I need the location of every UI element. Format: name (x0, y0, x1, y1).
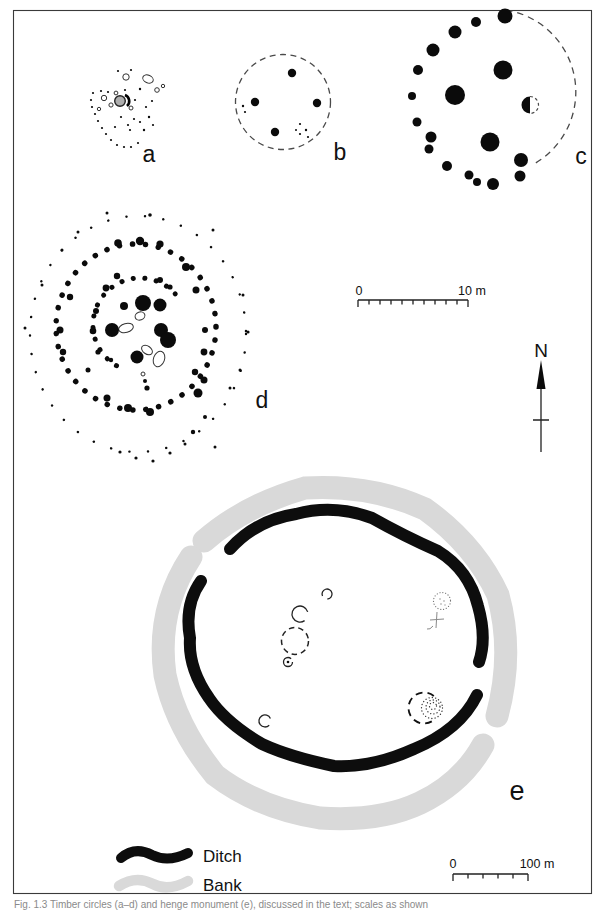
timber-circle-b: b (236, 55, 347, 166)
figure-caption-clipped: Fig. 1.3 Timber circles (a–d) and henge … (14, 899, 592, 910)
henge-interior-features (259, 589, 451, 727)
postholes-c (408, 9, 528, 191)
legend-ditch-label: Ditch (203, 847, 242, 866)
scale-start-label: 0 (450, 857, 457, 871)
central-dashed-circle (282, 628, 309, 655)
central-gray-pit (115, 96, 126, 107)
panel-label-d: d (256, 387, 269, 413)
central-pit-cluster (105, 295, 176, 391)
scale-start-label: 0 (356, 284, 363, 298)
north-arrowhead (537, 360, 546, 389)
scale-bar-10m: 0 10 m (356, 284, 486, 307)
scale-line (453, 874, 528, 881)
timber-circle-d: d (24, 212, 269, 463)
stippled-mound-ne (427, 593, 451, 630)
north-shaft (533, 389, 549, 452)
panel-label-b: b (334, 139, 347, 165)
middle-posthole-ring (56, 244, 216, 410)
legend: Ditch Bank (119, 847, 242, 895)
panel-label-c: c (575, 143, 587, 169)
scale-bar-100m: 0 100 m (450, 857, 555, 881)
henge-e: e (163, 487, 524, 818)
small-pit-arc-2 (292, 606, 308, 622)
scale-end-label: 10 m (458, 284, 486, 298)
north-arrow: N (533, 340, 549, 452)
north-label: N (534, 340, 548, 361)
legend-bank-label: Bank (203, 876, 242, 895)
irregular-posthole-dots (24, 212, 250, 463)
scale-line (358, 300, 468, 307)
ditch-ring (188, 510, 482, 766)
legend-ditch-swatch (121, 851, 188, 858)
ring-ditch-dashed-c (506, 10, 576, 164)
postholes-b (242, 69, 321, 138)
small-pit-arc-1 (322, 589, 332, 599)
timber-circle-c: c (408, 9, 587, 191)
bank-arc-north (204, 487, 506, 716)
panel-label-e: e (509, 776, 524, 806)
stippled-feature-se (409, 692, 443, 723)
ditch-arc-south (188, 581, 477, 766)
small-pit-arc-3 (259, 715, 270, 727)
legend-bank-swatch (119, 880, 188, 887)
half-excavated-posthole (522, 97, 539, 114)
timber-circle-a: a (90, 69, 165, 167)
scale-end-label: 100 m (520, 857, 555, 871)
panel-label-a: a (143, 141, 156, 167)
